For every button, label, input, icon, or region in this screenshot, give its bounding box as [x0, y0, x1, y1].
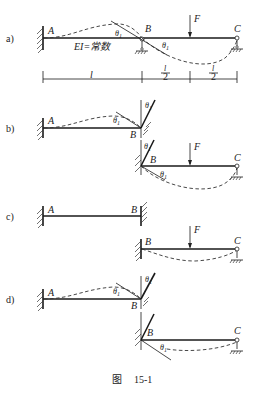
load-f-label: F: [193, 224, 201, 235]
theta-label: θ1: [160, 170, 167, 180]
panel-a: a) A B C EI=常数: [6, 13, 243, 83]
load-arrow-icon: [188, 15, 192, 38]
fixed-support-icon: [37, 26, 43, 53]
theta-label: θ1: [113, 287, 120, 297]
panel-c-label: c): [6, 211, 14, 223]
theta-label: θ1: [144, 142, 151, 152]
panel-b-label: b): [6, 123, 14, 135]
fixed-support-icon: [37, 206, 43, 228]
theta-label: θ1: [145, 275, 152, 285]
load-arrow-icon: [188, 143, 192, 166]
node-c-label: C: [234, 152, 241, 163]
dim-half-den: 2: [211, 71, 216, 82]
dim-l-label: l: [90, 69, 93, 80]
fixed-support-icon: [141, 202, 147, 226]
panel-b: b) A B θ1 θ1 θ1 B C θ1: [6, 100, 243, 189]
theta-label: θ1: [115, 29, 122, 39]
figure-caption-number: 15-1: [134, 374, 152, 385]
panel-d-label: d): [6, 294, 14, 306]
panel-d: d) A B θ1 θ1 B C θ1: [6, 273, 243, 360]
deflection-curve-bc: [141, 166, 237, 189]
fixed-support-icon: [37, 289, 43, 311]
node-b-label: B: [150, 154, 156, 165]
node-c-label: C: [234, 325, 241, 336]
continuous-beam-figure: a) A B C EI=常数: [0, 0, 258, 395]
panel-a-label: a): [6, 33, 14, 45]
node-b-label: B: [145, 236, 151, 247]
node-c-label: C: [234, 235, 241, 246]
theta-label: θ1: [160, 343, 167, 353]
node-c-label: C: [234, 23, 241, 34]
dim-half-den: 2: [163, 71, 168, 82]
figure-caption-prefix: 图: [112, 374, 122, 385]
stiffness-label: EI=常数: [73, 41, 112, 52]
fixed-support-icon: [135, 239, 141, 261]
panel-c: c) A B B C F: [6, 202, 243, 263]
node-a-label: A: [47, 115, 55, 126]
deflection-curve-bc: [167, 342, 237, 351]
fixed-support-icon: [37, 118, 43, 140]
dimension-line: [43, 71, 237, 83]
node-a-label: A: [47, 287, 55, 298]
node-b-label: B: [145, 23, 151, 34]
load-arrow-icon: [188, 226, 192, 249]
deflection-curve-bc: [142, 38, 237, 64]
load-f-label: F: [193, 13, 201, 24]
theta-label: θ1: [162, 41, 169, 51]
node-a-label: A: [47, 204, 55, 215]
theta-label: θ1: [145, 101, 152, 111]
deflection-curve-ab: [44, 287, 141, 299]
theta-label: θ1: [113, 116, 120, 126]
node-b-label: B: [130, 129, 136, 140]
deflection-curve-bc: [142, 249, 237, 261]
node-a-label: A: [47, 25, 55, 36]
node-b-label: B: [131, 300, 137, 311]
deflection-curve-ab: [44, 116, 141, 128]
node-b-label: B: [147, 327, 153, 338]
node-b-label: B: [131, 204, 137, 215]
load-f-label: F: [193, 141, 201, 152]
